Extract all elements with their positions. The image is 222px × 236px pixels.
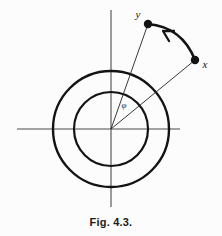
- figure-container: y x φ Fig. 4.3.: [0, 0, 222, 236]
- point-x-label: x: [202, 58, 208, 70]
- angle-phi-label: φ: [122, 100, 127, 110]
- point-y-dot: [144, 20, 152, 28]
- figure-caption: Fig. 4.3.: [0, 216, 222, 228]
- axes-group: [17, 10, 180, 207]
- arc-arrow-group: [148, 24, 195, 60]
- figure-drawing: y x φ: [0, 0, 222, 236]
- point-y-label: y: [135, 8, 141, 20]
- point-x-dot: [191, 56, 199, 64]
- arc-from-x-to-y: [148, 24, 195, 60]
- points-group: [144, 20, 199, 64]
